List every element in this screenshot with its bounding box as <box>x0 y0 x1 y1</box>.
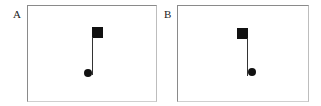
panel-b-label: B <box>164 8 171 20</box>
panel-b <box>177 5 309 102</box>
panel-b-dot <box>248 68 256 76</box>
panel-a-dot <box>84 69 92 77</box>
panel-a-label: A <box>13 8 21 20</box>
panel-a-stem <box>92 37 94 75</box>
panel-a-square <box>92 27 103 38</box>
